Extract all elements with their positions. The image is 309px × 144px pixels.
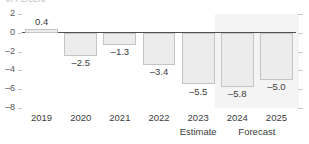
- y-axis-tick-mark-right: [298, 33, 303, 34]
- bar: [260, 33, 293, 80]
- bar: [221, 33, 254, 88]
- y-axis-tick-label: 0: [10, 27, 15, 37]
- y-axis-tick-mark: [18, 70, 22, 71]
- y-axis-tick-mark-right: [298, 70, 303, 71]
- y-axis-tick-label: 2: [10, 8, 15, 18]
- y-axis-tick-label: –2: [5, 46, 15, 56]
- bar: [64, 33, 97, 57]
- bar: [103, 33, 136, 45]
- bar-value-label: 0.4: [17, 16, 66, 27]
- bar: [182, 33, 215, 85]
- y-axis-tick-mark-right: [298, 14, 303, 15]
- bar-value-label: –3.4: [134, 66, 183, 77]
- y-axis-tick-label: –6: [5, 83, 15, 93]
- y-axis-tick-mark: [18, 89, 22, 90]
- x-axis-category-label: 2025: [251, 112, 302, 123]
- plot-area: 20–2–4–6–80.4–2.5–1.3–3.4–5.5–5.8–5.0: [22, 14, 296, 108]
- y-axis-tick-mark-right: [298, 108, 303, 109]
- bar-value-label: –5.0: [252, 81, 301, 92]
- bar-value-label: –1.3: [95, 46, 144, 57]
- y-axis-tick-mark-right: [298, 52, 303, 53]
- axis-units-caption: in Percent: [6, 0, 45, 4]
- y-axis-tick-label: –8: [5, 102, 15, 112]
- y-axis-tick-mark: [18, 14, 22, 15]
- y-axis-tick-mark: [18, 52, 22, 53]
- bar-value-label: –2.5: [56, 57, 105, 68]
- bar: [143, 33, 176, 65]
- bar: [25, 29, 58, 33]
- x-axis-annotation-label: Forecast: [208, 126, 306, 137]
- y-axis-tick-label: –4: [5, 64, 15, 74]
- bar-chart: in Percent 20–2–4–6–80.4–2.5–1.3–3.4–5.5…: [0, 0, 309, 144]
- y-axis-tick-mark: [18, 108, 22, 109]
